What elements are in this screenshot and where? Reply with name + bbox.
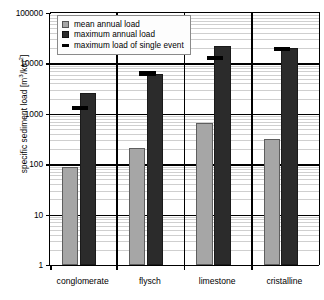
y-axis-tick: [46, 63, 51, 64]
bar-mean-annual-load: [62, 167, 78, 265]
bar-maximum-annual-load: [147, 74, 163, 265]
category-separator: [251, 12, 253, 265]
x-axis-category-label: flysch: [139, 276, 161, 286]
legend-label-maximum-annual-load: maximum annual load: [74, 30, 155, 39]
y-axis-tick-label: 100: [29, 159, 43, 169]
plot-right-border: [319, 12, 320, 265]
x-axis-tick: [251, 265, 253, 270]
marker-maximum-single-event: [274, 47, 290, 51]
legend-item-mean-annual-load: mean annual load: [62, 19, 184, 30]
x-axis-tick: [184, 265, 186, 270]
y-axis-tick-label: 10000: [20, 58, 43, 68]
bar-maximum-annual-load: [281, 48, 297, 265]
bar-maximum-annual-load: [214, 46, 230, 265]
y-axis-label-text: specific sediment load [m: [19, 78, 29, 174]
black-bar-swatch-icon: [62, 44, 69, 47]
x-axis-tick: [50, 265, 52, 270]
legend-label-maximum-single-event: maximum load of single event: [74, 41, 184, 50]
dark-square-swatch-icon: [62, 31, 69, 38]
marker-maximum-single-event: [207, 56, 223, 60]
marker-maximum-single-event: [72, 106, 88, 110]
x-axis-tick: [116, 265, 118, 270]
legend-item-maximum-single-event: maximum load of single event: [62, 40, 184, 51]
legend-item-maximum-annual-load: maximum annual load: [62, 30, 184, 41]
bar-mean-annual-load: [264, 139, 280, 265]
bar-mean-annual-load: [196, 123, 212, 265]
bar-maximum-annual-load: [80, 93, 96, 265]
y-axis-tick-label: 1000: [25, 109, 43, 119]
gray-square-swatch-icon: [62, 21, 69, 28]
x-axis-category-label: limestone: [199, 276, 236, 286]
y-axis-tick-label: 10: [34, 210, 43, 220]
y-axis-label-end: ]: [19, 54, 29, 56]
y-axis-tick-label: 1: [38, 260, 43, 270]
y-axis-tick: [46, 215, 51, 216]
y-axis-tick: [46, 164, 51, 165]
marker-maximum-single-event: [139, 71, 155, 75]
y-axis-label-sup-volume: 3: [17, 74, 24, 78]
legend-label-mean-annual-load: mean annual load: [74, 20, 140, 29]
y-axis-tick: [46, 114, 51, 115]
y-axis-tick: [46, 13, 51, 14]
x-axis-category-label: conglomerate: [57, 276, 109, 286]
sediment-load-bar-chart: specific sediment load [m3/km2] 10000010…: [0, 0, 324, 300]
bar-mean-annual-load: [129, 148, 145, 265]
y-axis-tick-label: 100000: [16, 8, 43, 18]
chart-legend: mean annual load maximum annual load max…: [57, 15, 191, 55]
x-axis-category-label: cristalline: [266, 276, 302, 286]
